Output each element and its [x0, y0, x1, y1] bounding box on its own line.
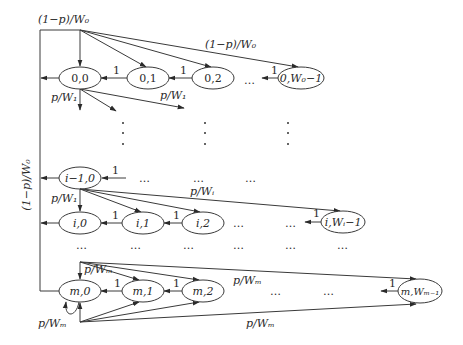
edge-label: p/Wᵢ	[190, 185, 214, 198]
edge-label: …	[76, 239, 89, 252]
edge-arrow	[80, 189, 141, 212]
edge-label: 1	[389, 277, 396, 290]
edge-label: i−1,0	[65, 172, 95, 185]
node-0-0: 0,0	[59, 67, 101, 89]
edge-label: 1	[180, 64, 187, 77]
edge-label: …	[323, 285, 336, 298]
edge-label: …	[130, 239, 143, 252]
node-0-W0-minus-1: 0,W₀−1	[278, 67, 324, 89]
edge-label: 1	[271, 64, 278, 77]
label-top-right: (1−p)/W₀	[205, 38, 257, 51]
edge-label: 0,W₀−1	[280, 72, 322, 85]
node-m-Wm-minus-1: m,Wₘ₋₁	[398, 279, 442, 303]
node-i-1: i,1	[122, 212, 164, 234]
node-i-minus-1-0: i−1,0	[59, 167, 101, 189]
edge-label: …	[233, 239, 246, 252]
edge-label: m,1	[133, 285, 154, 298]
edge-arrow	[122, 122, 124, 124]
edge-label: m,Wₘ₋₁	[401, 286, 439, 297]
node-i-0: i,0	[59, 212, 101, 234]
edge-label: i,Wᵢ−1	[325, 216, 362, 229]
edge-label: i,2	[196, 217, 210, 230]
edge-label: 0,0	[71, 72, 89, 85]
node-0-1: 0,1	[127, 67, 169, 89]
edge-label: 1	[112, 209, 119, 222]
edge-label: …	[285, 239, 298, 252]
label-vertical: (1−p)/W₀	[20, 159, 33, 211]
edge-label: m,0	[70, 285, 91, 298]
edge-arrow	[204, 122, 206, 124]
edge-label: …	[244, 74, 257, 87]
edge-label: …	[193, 172, 206, 185]
edge-label: …	[270, 285, 283, 298]
edge-label: p/Wₘ	[38, 317, 67, 330]
edge-label: 1	[313, 207, 320, 220]
edge-label: i,0	[73, 217, 87, 230]
edge-label: 1	[112, 164, 119, 177]
edge-label: …	[245, 172, 258, 185]
edge-label: p/Wₘ	[233, 274, 262, 287]
edge-label: p/W₁	[51, 192, 77, 205]
edge-label: m,2	[193, 285, 214, 298]
node-i-2: i,2	[182, 212, 224, 234]
edge-label: …	[285, 217, 298, 230]
node-i-Wi-minus-1: i,Wᵢ−1	[321, 211, 365, 233]
edge-arrow	[287, 122, 289, 124]
vertical-ellipsis	[122, 122, 289, 145]
edge-arrow	[80, 189, 200, 212]
edge-label: …	[233, 217, 246, 230]
edge-label: p/Wₘ	[84, 263, 113, 276]
edge-label: …	[183, 239, 196, 252]
edge-label: 1	[173, 209, 180, 222]
edge-arrow	[204, 143, 206, 145]
edge-label: …	[139, 172, 152, 185]
edge-label: p/W₁	[51, 91, 77, 104]
node-0-2: 0,2	[192, 67, 234, 89]
node-m-2: m,2	[182, 280, 224, 302]
edge-label: 1	[114, 277, 121, 290]
markov-chain-diagram: 0,0 0,1 0,2 0,W₀−1 (1−p)/W₀ (1−p)/W₀ 1 1…	[0, 0, 463, 345]
edge-arrow	[122, 132, 124, 134]
edge-label: p/W₁	[160, 89, 186, 102]
edge-label: 0,2	[204, 72, 222, 85]
edge-arrow	[287, 132, 289, 134]
edge-arrow	[122, 143, 124, 145]
edge-arrow	[204, 132, 206, 134]
edge-label: i,1	[136, 217, 150, 230]
node-m-0: m,0	[59, 280, 101, 302]
edge-arrow	[287, 143, 289, 145]
edge-label: …	[337, 239, 350, 252]
edge-label: p/Wₘ	[246, 317, 275, 330]
edge-label: 1	[173, 277, 180, 290]
node-m-1: m,1	[122, 280, 164, 302]
edge-arrow	[66, 302, 79, 314]
edge-label: 0,1	[139, 72, 157, 85]
label-top-left: (1−p)/W₀	[38, 13, 90, 26]
edge-label: 1	[113, 64, 120, 77]
